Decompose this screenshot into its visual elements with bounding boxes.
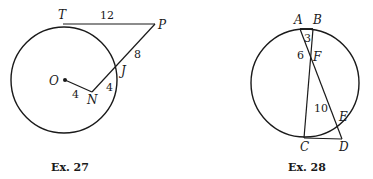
length-jn: 4 [106, 81, 113, 94]
segment-ad [300, 29, 342, 139]
segment-pn [92, 24, 155, 92]
caption-ex27: Ex. 27 [51, 161, 89, 174]
label-o: O [49, 74, 59, 88]
length-tp: 12 [100, 9, 114, 22]
length-bf: 3 [304, 32, 311, 45]
length-fe: 10 [314, 102, 328, 115]
label-b: B [312, 13, 322, 27]
figure-ex28: A B F C D E 3 6 10 Ex. 28 [251, 13, 359, 174]
label-f: F [312, 50, 322, 64]
segment-bc [304, 29, 313, 138]
label-e: E [338, 110, 348, 124]
caption-ex28: Ex. 28 [288, 161, 326, 174]
label-j: J [118, 64, 127, 78]
label-d: D [338, 140, 349, 154]
segment-cd [304, 138, 342, 139]
label-a: A [293, 13, 303, 27]
length-on: 4 [72, 88, 79, 101]
figure-ex27: T P J O N 12 8 4 4 Ex. 27 [11, 8, 167, 174]
geometry-figures: T P J O N 12 8 4 4 Ex. 27 A B F C D E 3 … [0, 0, 373, 179]
label-n: N [86, 93, 98, 107]
label-p: P [157, 18, 167, 32]
label-c: C [300, 140, 309, 154]
length-af: 6 [297, 49, 304, 62]
center-dot [63, 78, 67, 82]
label-t: T [58, 8, 67, 22]
length-pj: 8 [134, 48, 141, 61]
